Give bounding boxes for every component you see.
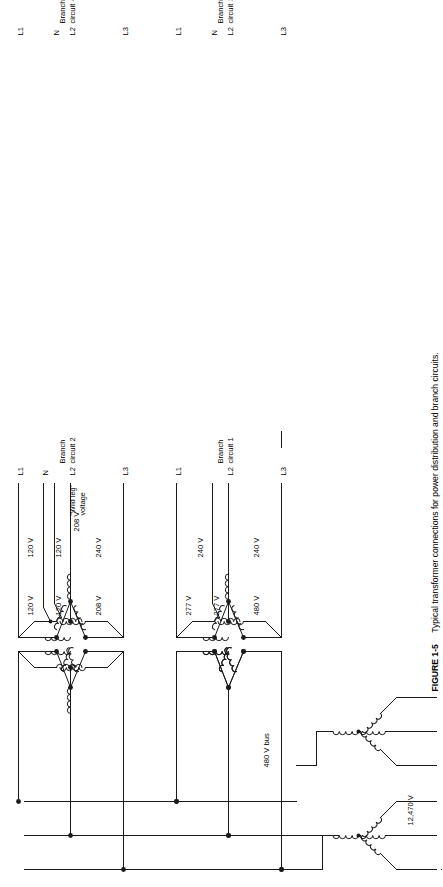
bc1-voltage-l2-l3: 240 V	[251, 536, 260, 557]
bc4-conductor-l3: L3	[120, 27, 129, 35]
bc2-conductor-l3: L3	[120, 467, 129, 475]
bc3-conductor-l1: L1	[173, 27, 182, 35]
bc3-voltage-l2-l3: 480 V	[251, 594, 260, 615]
bc1-name-line1: Branch	[215, 439, 224, 463]
bc4-voltage-l1-n: 120 V	[25, 594, 34, 615]
bc2-name-line2: circuit 2	[67, 437, 76, 463]
bc1-conductor-l1: L1	[173, 467, 182, 475]
bc2-conductor-n: N	[40, 470, 49, 475]
bc4-conductor-n: N	[51, 30, 60, 35]
source-voltage-label: 12,470 V	[405, 794, 414, 825]
figure-caption-text: Typical transformer connections for powe…	[429, 352, 439, 632]
bc2-wild-leg-label-line1: “Wild leg”	[67, 484, 76, 515]
step-down-transformer	[296, 697, 436, 765]
bc3-voltage-l1-n: 277 V	[183, 594, 192, 615]
bc4-name-line1: Branch	[57, 0, 66, 23]
bc2-voltage-n-l2: 120 V	[53, 536, 62, 557]
bc3-conductor-n: N	[209, 30, 218, 35]
bc4-voltage-l2-l3: 208 V	[93, 594, 102, 615]
figure-number: FIGURE 1-5	[429, 644, 439, 691]
diagram-lines	[0, 483, 441, 871]
bc2-name-line1: Branch	[57, 439, 66, 463]
transformer-connection-diagram: 12,470 V 480 V bus 240 V 240 V L3 L2 L1 …	[0, 0, 443, 887]
bc3-name-line1: Branch	[215, 0, 224, 23]
bus-label: 480 V bus	[261, 733, 270, 767]
bc4-conductor-l1: L1	[15, 27, 24, 35]
bc4-voltage-n-l2: 120 V	[53, 594, 62, 615]
bc3-voltage-n-l2: 277 V	[211, 594, 220, 615]
figure-caption: FIGURE 1-5 Typical transformer connectio…	[423, 352, 440, 691]
bc4-name-line2: circuit 4	[67, 0, 76, 23]
bc3-name-line2: circuit 3	[225, 0, 234, 23]
bc3	[176, 483, 281, 869]
bc2-conductor-l2: L2	[67, 467, 76, 475]
bc3-conductor-l2: L2	[225, 27, 234, 35]
diagram-lines-right	[24, 651, 283, 871]
bc4-conductor-l2: L2	[67, 27, 76, 35]
bc3-conductor-l3: L3	[278, 27, 287, 35]
bc1-voltage-l1-l2: 240 V	[195, 536, 204, 557]
diagram-svg: 12,470 V 480 V bus 240 V 240 V L3 L2 L1 …	[0, 0, 443, 887]
bc2-voltage-l1-n: 120 V	[25, 536, 34, 557]
bc2-wild-leg-label-line2: voltage	[77, 492, 86, 515]
bc1-name-line2: circuit 1	[225, 437, 234, 463]
figure-page: 12,470 V 480 V bus 240 V 240 V L3 L2 L1 …	[0, 0, 443, 887]
bc2-voltage-l2-l3: 240 V	[93, 536, 102, 557]
bc1-conductor-l2: L2	[225, 467, 234, 475]
bc2-conductor-l1: L1	[15, 467, 24, 475]
bc1-conductor-l3: L3	[278, 467, 287, 475]
